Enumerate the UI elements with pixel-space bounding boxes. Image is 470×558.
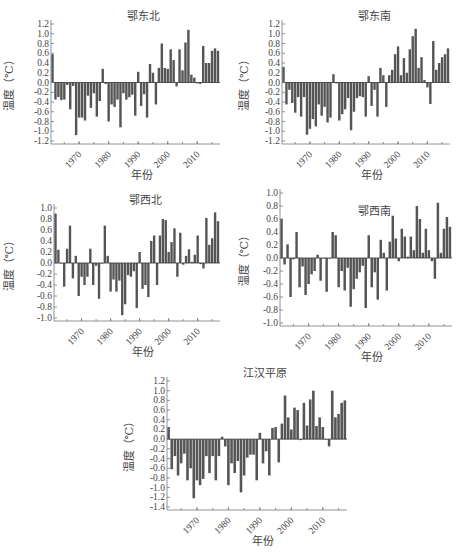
bar <box>429 83 431 104</box>
y-tick-label: -0.8 <box>265 117 280 127</box>
bar <box>78 263 80 296</box>
bar <box>289 258 291 297</box>
bar <box>382 75 384 82</box>
y-tick-label: -1.2 <box>265 136 280 146</box>
bar <box>137 72 139 83</box>
bar <box>63 263 65 287</box>
bar <box>340 403 343 439</box>
y-tick-label: 0.8 <box>266 201 278 211</box>
bar <box>240 439 243 492</box>
bar <box>298 258 300 287</box>
bar <box>332 74 334 82</box>
y-tick-label: 1.0 <box>153 386 165 396</box>
y-tick-label: -1.2 <box>150 492 165 502</box>
bar <box>54 83 56 100</box>
bar <box>380 240 382 258</box>
y-tick-label: 0.2 <box>37 68 49 78</box>
bar <box>75 83 77 136</box>
bar <box>167 427 170 439</box>
bar <box>373 83 375 90</box>
bar <box>315 83 317 127</box>
y-tick-label: -0.4 <box>263 279 278 289</box>
chart-title: 鄂西南 <box>358 205 391 217</box>
y-tick-label: 0.0 <box>266 253 278 263</box>
bar <box>143 83 145 95</box>
bar <box>352 258 354 289</box>
x-tick-label: 1980 <box>323 331 344 352</box>
bar <box>349 258 351 307</box>
bar <box>140 83 142 106</box>
bar <box>344 400 347 439</box>
bar <box>294 83 296 113</box>
bar <box>303 83 305 98</box>
bar <box>205 439 208 456</box>
bar <box>217 221 219 263</box>
bar <box>215 439 218 480</box>
bar <box>224 439 227 446</box>
y-tick-label: -0.4 <box>150 454 165 464</box>
bar <box>169 49 171 82</box>
bar <box>359 83 361 97</box>
y-tick-label: -0.8 <box>263 305 278 315</box>
y-axis-title: 温度（℃） <box>2 235 15 291</box>
bar <box>391 70 393 83</box>
bar <box>282 67 284 83</box>
bar <box>128 83 130 98</box>
bar <box>66 249 68 263</box>
bar <box>69 83 71 110</box>
bar <box>54 214 56 264</box>
bar <box>293 408 296 440</box>
bar <box>63 83 65 100</box>
bar <box>353 83 355 112</box>
bar <box>78 83 80 118</box>
bar <box>447 48 449 82</box>
bar <box>173 228 175 263</box>
bar <box>262 439 265 463</box>
y-tick-label: -1.0 <box>150 483 165 493</box>
bar <box>113 83 115 107</box>
bar <box>179 233 181 263</box>
bar <box>431 258 433 261</box>
bar <box>432 41 434 82</box>
y-tick-label: 1.2 <box>268 19 280 29</box>
y-tick-label: 1.2 <box>37 19 49 29</box>
bar <box>300 83 302 117</box>
bar <box>208 439 211 473</box>
chart-title: 鄂东北 <box>127 10 160 22</box>
bar <box>441 57 443 82</box>
bar <box>318 417 321 439</box>
bar <box>211 51 213 83</box>
bar <box>428 250 430 258</box>
y-tick-label: 0.6 <box>268 48 280 58</box>
y-tick-label: -0.2 <box>34 87 49 97</box>
bar <box>69 226 71 263</box>
bar <box>368 235 370 258</box>
bar <box>131 83 133 95</box>
y-tick-label: -1.0 <box>34 126 49 136</box>
bar <box>414 29 416 83</box>
bar <box>341 83 343 115</box>
bar <box>95 263 97 266</box>
chart-title: 鄂西北 <box>129 194 162 206</box>
bar <box>259 433 262 439</box>
bar <box>122 83 124 94</box>
bar <box>57 83 59 98</box>
bar <box>309 399 312 439</box>
bar <box>233 439 236 473</box>
bar <box>155 83 157 105</box>
bar <box>162 219 164 263</box>
bar <box>334 417 337 439</box>
bar <box>438 63 440 83</box>
bar <box>165 220 167 263</box>
bar <box>192 439 195 498</box>
y-tick-label: 0.8 <box>268 39 280 49</box>
bar <box>312 391 315 439</box>
x-axis-title: 年份 <box>361 168 383 181</box>
y-tick-label: -0.4 <box>34 97 49 107</box>
y-tick-label: 0.4 <box>153 415 165 425</box>
bar <box>280 219 282 258</box>
bar <box>107 256 109 263</box>
x-tick-label: 1980 <box>212 515 233 536</box>
bar <box>340 258 342 271</box>
bar-chart: 鄂东南1.21.00.80.60.40.20.0-0.2-0.4-0.6-0.8… <box>235 0 470 185</box>
